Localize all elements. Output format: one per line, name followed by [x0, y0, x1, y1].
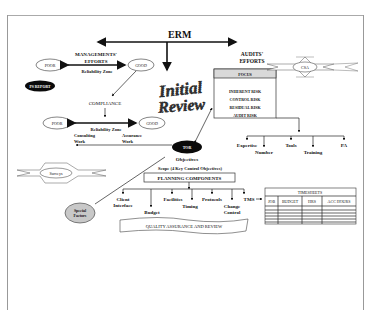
component-facilities: Facilities [163, 197, 182, 202]
timesheets-col-job: JOB [268, 199, 275, 204]
consulting-line2: Work [74, 139, 85, 144]
erm-title: ERM [168, 29, 192, 40]
objectives-label: Objectives [176, 157, 199, 162]
component-tms: TMS [244, 197, 255, 202]
poor-label-2: POOR [52, 121, 63, 126]
audits-heading-line2: EFFORTS [239, 58, 264, 64]
management-heading-line1: MANAGEMENTS' [75, 52, 118, 57]
focus-box: FOCUS INHERENT RISK CONTROL RISK RESIDUA… [214, 69, 276, 118]
timesheets-title: TIMESHEETS [298, 190, 322, 195]
resource-number: Number [255, 150, 274, 155]
erm-diagram: ERM MANAGEMENTS' EFFORTS POOR GOOD Relia… [0, 0, 369, 310]
timesheets-col-acc-hours: ACC HOURS [328, 199, 351, 204]
focus-item: INHERENT RISK [229, 89, 262, 94]
csa-label: CSA [301, 65, 309, 70]
stamp-line2: Review [157, 95, 206, 115]
csa-star: CSA [267, 57, 358, 77]
component-interface: Interface [113, 203, 133, 208]
resource-pa: PA [341, 143, 348, 148]
resource-training: Training [304, 150, 323, 155]
surveys-label: Surveys [50, 171, 63, 176]
management-heading-line2: EFFORTS [85, 59, 108, 64]
timesheets-col-budget: BUDGET [282, 199, 299, 204]
initial-review-stamp: Initial Review [157, 78, 206, 116]
reliability-zone-2: Reliability Zone [91, 127, 122, 132]
component-budget: Budget [144, 210, 160, 215]
special-factors-line2: Factors [74, 213, 87, 218]
reliability-zone-1: Reliability Zone [82, 69, 113, 74]
timesheets-col-hrs: HRS [308, 199, 316, 204]
tor-label: TOR [183, 145, 192, 150]
focus-item: RESIDUAL RISK [229, 105, 261, 110]
component-protocols: Protocols [202, 197, 222, 202]
ps-report-label: PS REPORT [29, 85, 51, 89]
quality-label: QUALITY ASSURANCE AND REVIEW [146, 224, 223, 229]
focus-item: CONTROL RISK [230, 97, 262, 102]
consulting-line1: Consulting [74, 133, 96, 138]
component-change: Change [224, 204, 241, 209]
good-label-2: GOOD [146, 121, 158, 126]
focus-header: FOCUS [238, 72, 252, 77]
assurance-line2: Work [122, 139, 133, 144]
planning-header: PLANNING COMPONENTS [158, 176, 222, 181]
assurance-line1: Assurance [122, 133, 142, 138]
good-label-1: GOOD [135, 63, 147, 68]
resource-expertise: Expertise [237, 143, 258, 148]
component-client: Client [116, 197, 129, 202]
resource-tools: Tools [285, 143, 296, 148]
audits-heading-line1: AUDITS' [241, 51, 264, 57]
component-control: Control [224, 210, 241, 215]
surveys-star: Surveys [17, 163, 106, 183]
good-to-compliance-arrow [112, 71, 136, 96]
component-timing: Timing [182, 204, 198, 209]
page-frame [7, 15, 364, 310]
compliance-label: COMPLIANCE [89, 101, 122, 106]
poor-label-1: POOR [45, 63, 56, 68]
scope-label: Scope (4 Key Control Objectives) [158, 166, 222, 171]
focus-item: AUDIT RISK [233, 113, 257, 118]
